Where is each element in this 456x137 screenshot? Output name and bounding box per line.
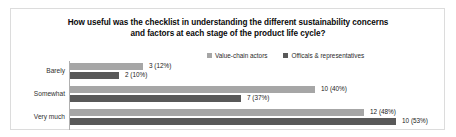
- legend-item-value-chain-actors: Value-chain actors: [207, 52, 267, 59]
- category-label: Barely: [11, 67, 65, 74]
- chart-legend: Value-chain actors Officals & representa…: [207, 50, 364, 61]
- chart-title-line-2: and factors at each stage of the product…: [29, 28, 427, 39]
- legend-label: Officals & representatives: [291, 52, 364, 59]
- bar-officals-representatives: [70, 95, 241, 102]
- bar-officals-representatives: [70, 72, 119, 79]
- bar-officals-representatives: [70, 118, 396, 125]
- chart-title-line-1: How useful was the checklist in understa…: [29, 17, 427, 28]
- legend-item-officals-representatives: Officals & representatives: [283, 52, 364, 59]
- bar-data-label: 7 (37%): [247, 94, 269, 101]
- plot-area: Barely 3 (12%) 2 (10%) Somewhat 10 (40%)…: [11, 61, 446, 131]
- bar-group-very-much: Very much 12 (48%) 10 (53%): [11, 107, 446, 130]
- bar-group-somewhat: Somewhat 10 (40%) 7 (37%): [11, 84, 446, 107]
- bar-group-barely: Barely 3 (12%) 2 (10%): [11, 61, 446, 84]
- bar-data-label: 10 (53%): [402, 117, 428, 124]
- category-label: Very much: [11, 113, 65, 120]
- chart-container: How useful was the checklist in understa…: [10, 8, 445, 130]
- bar-data-label: 2 (10%): [125, 71, 147, 78]
- chart-title: How useful was the checklist in understa…: [29, 17, 427, 39]
- bar-value-chain-actors: [70, 63, 143, 70]
- category-label: Somewhat: [11, 90, 65, 97]
- bar-value-chain-actors: [70, 86, 315, 93]
- bar-data-label: 10 (40%): [321, 85, 347, 92]
- bar-data-label: 12 (48%): [370, 108, 396, 115]
- bar-value-chain-actors: [70, 109, 364, 116]
- bar-data-label: 3 (12%): [149, 62, 171, 69]
- legend-swatch-icon: [207, 53, 212, 58]
- legend-swatch-icon: [283, 53, 288, 58]
- legend-label: Value-chain actors: [215, 52, 267, 59]
